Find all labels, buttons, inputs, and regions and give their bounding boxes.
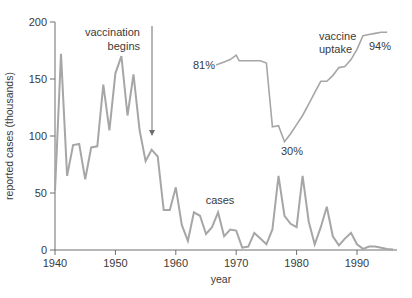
x-tick-label: 1950 — [103, 257, 127, 269]
cases-line — [55, 54, 393, 250]
vaccine-uptake-label: vaccine — [319, 30, 356, 42]
y-tick-label: 50 — [35, 187, 47, 199]
arrowhead-icon — [149, 130, 155, 136]
series-layer — [55, 32, 393, 249]
chart-canvas: 050100150200194019501960197019801990 rep… — [0, 0, 412, 298]
y-axis-title: reported cases (thousands) — [3, 72, 15, 200]
vaccination-begins-label: vaccination — [85, 26, 140, 38]
uptake-leader-line — [216, 64, 218, 65]
uptake-end-pct: 94% — [369, 40, 391, 52]
cases-label: cases — [206, 194, 235, 206]
uptake-min-pct: 30% — [281, 145, 303, 157]
y-tick-label: 150 — [29, 73, 47, 85]
x-axis-title: year — [211, 273, 232, 285]
measles-cases-chart: 050100150200194019501960197019801990 rep… — [0, 0, 412, 298]
x-tick-label: 1990 — [345, 257, 369, 269]
vaccine-uptake-label-2: uptake — [319, 43, 352, 55]
x-tick-label: 1960 — [164, 257, 188, 269]
uptake-start-pct: 81% — [193, 59, 215, 71]
x-tick-label: 1970 — [224, 257, 248, 269]
y-tick-label: 0 — [41, 244, 47, 256]
y-tick-label: 100 — [29, 130, 47, 142]
vaccination-begins-label-2: begins — [108, 40, 141, 52]
vaccine-uptake-line — [218, 32, 387, 141]
y-tick-label: 200 — [29, 16, 47, 28]
x-tick-label: 1980 — [284, 257, 308, 269]
x-tick-label: 1940 — [43, 257, 67, 269]
